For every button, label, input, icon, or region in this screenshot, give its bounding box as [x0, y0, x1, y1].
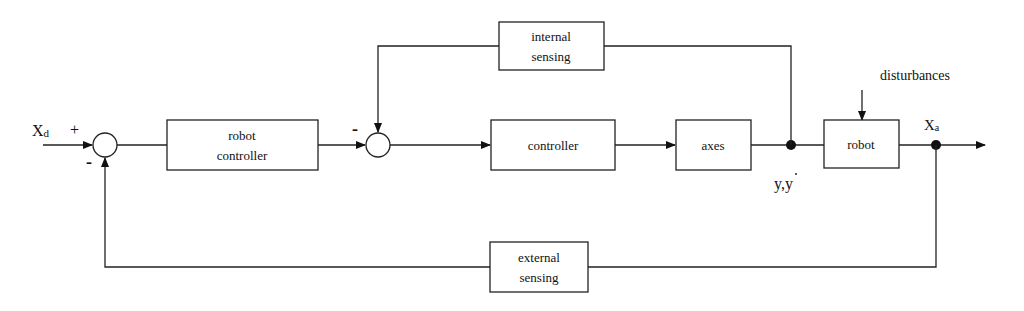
internal-sensing-line2: sensing	[532, 49, 572, 64]
controller-label: controller	[528, 138, 579, 153]
robot-block: robot	[824, 120, 899, 168]
axes-block: axes	[676, 120, 751, 170]
internal-sensing-line1: internal	[531, 29, 571, 44]
external-sensing-line2: sensing	[520, 270, 560, 285]
internal-sensing-block: internal sensing	[499, 22, 604, 70]
robot-controller-line1: robot	[228, 128, 256, 143]
external-sensing-block: external sensing	[490, 242, 588, 292]
external-feedback-left-line	[105, 158, 490, 267]
output-xa-label: Xa	[924, 117, 940, 133]
summing-junction-1	[93, 133, 117, 157]
sum2-minus-sign: -	[352, 119, 358, 139]
block-diagram: Xd + - robot controller - controller axe…	[0, 0, 1024, 311]
summing-junction-2	[366, 133, 390, 157]
robot-controller-block: robot controller	[167, 120, 318, 170]
controller-block: controller	[491, 120, 615, 170]
input-xd-label: Xd	[32, 122, 50, 139]
disturbances-label: disturbances	[880, 68, 950, 83]
robot-controller-line2: controller	[217, 148, 268, 163]
y-ydot-label: y,y	[774, 175, 793, 193]
robot-label: robot	[847, 137, 875, 152]
sum1-minus-sign: -	[86, 152, 92, 172]
sum1-plus-sign: +	[70, 121, 79, 138]
axes-label: axes	[701, 138, 724, 153]
y-dot-accent	[795, 173, 797, 175]
external-sensing-line1: external	[518, 250, 560, 265]
internal-feedback-left-line	[378, 46, 499, 132]
